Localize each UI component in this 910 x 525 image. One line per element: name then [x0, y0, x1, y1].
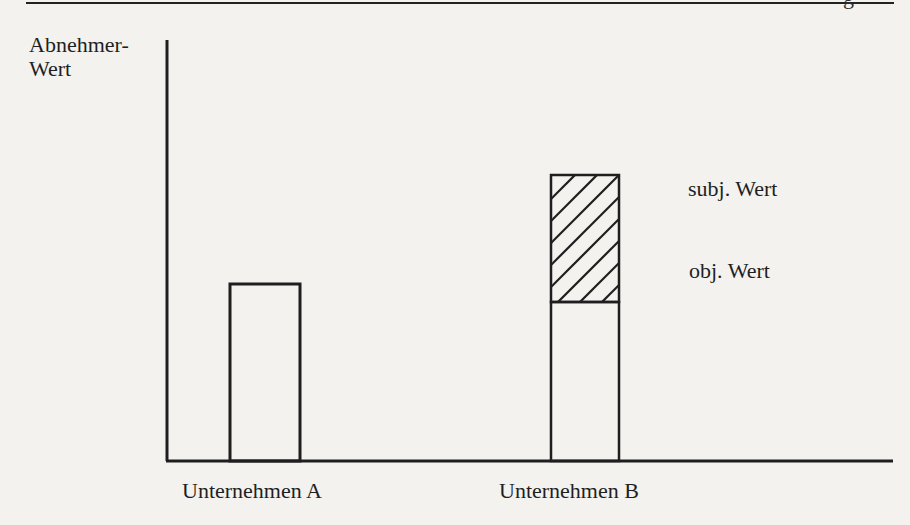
hatch-pattern [540, 150, 640, 344]
x-label-unternehmen-b: Unternehmen B [499, 479, 639, 503]
bar-unternehmen-a [230, 284, 300, 461]
x-label-unternehmen-a: Unternehmen A [182, 479, 322, 503]
legend-subjective-value: subj. Wert [688, 177, 777, 201]
bar-unternehmen-b-objective [551, 302, 619, 461]
bar-unternehmen-b-subjective [540, 150, 640, 344]
legend-objective-value: obj. Wert [689, 259, 770, 283]
bar-chart [0, 0, 910, 525]
diagram-page: g Abnehmer- Wert [0, 0, 910, 525]
